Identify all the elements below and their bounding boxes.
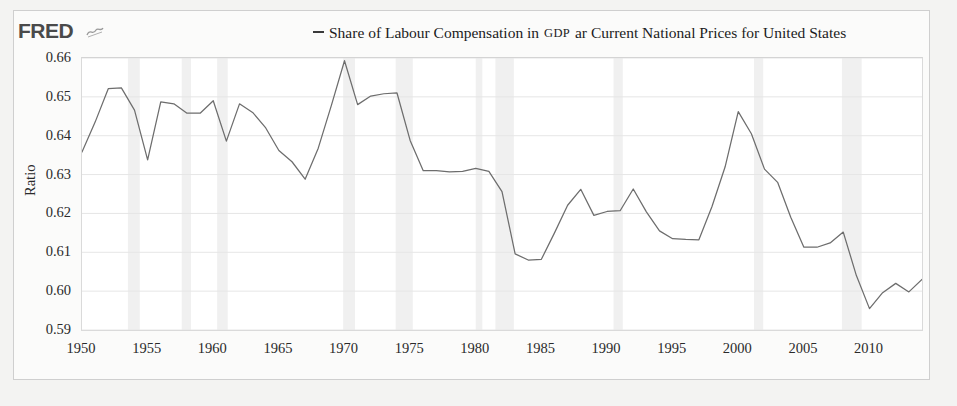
x-axis-tick-label: 1975 (395, 340, 424, 357)
y-axis-tick-label: 0.65 (25, 87, 71, 104)
x-axis-tick-label: 2005 (788, 340, 817, 357)
x-axis-tick-label: 1985 (526, 340, 555, 357)
squiggle-line-icon (86, 26, 104, 38)
recession-band (842, 58, 862, 330)
x-axis-tick-label: 1980 (460, 340, 489, 357)
x-axis-tick-label: 1970 (329, 340, 358, 357)
y-axis-tick-label: 0.61 (25, 243, 71, 260)
x-axis-tick-label: 1990 (592, 340, 621, 357)
legend-label-gdp: GDP (544, 26, 570, 41)
x-axis-tick-label: 1950 (67, 340, 96, 357)
y-axis-title: Ratio (22, 165, 39, 196)
recession-band (476, 58, 483, 330)
y-axis-tick-label: 0.64 (25, 126, 71, 143)
x-axis-tick-label: 1965 (263, 340, 292, 357)
y-axis-tick-label: 0.66 (25, 49, 71, 66)
legend-label-part1: Share of Labour Compensation in (329, 24, 539, 42)
x-axis-tick-label: 1995 (657, 340, 686, 357)
y-axis-tick-label: 0.59 (25, 321, 71, 338)
x-axis-tick-label: 1960 (198, 340, 227, 357)
x-axis-tick-label: 2010 (854, 340, 883, 357)
recession-band (343, 58, 355, 330)
recession-band (495, 58, 513, 330)
fred-logo[interactable]: FRED (18, 20, 73, 41)
y-axis-tick-label: 0.62 (25, 204, 71, 221)
y-axis-tick-label: 0.60 (25, 282, 71, 299)
recession-band (128, 58, 140, 330)
recession-band (614, 58, 623, 330)
plot-area[interactable] (81, 57, 923, 331)
recession-bands (128, 58, 862, 330)
chart-canvas (82, 58, 922, 330)
legend-label-part2: ar Current National Prices for United St… (575, 24, 846, 42)
recession-band (217, 58, 228, 330)
legend-line-marker (313, 31, 324, 33)
x-axis-tick-label: 1955 (132, 340, 161, 357)
x-axis-tick-label: 2000 (723, 340, 752, 357)
chart-legend[interactable]: Share of Labour Compensation in GDP ar C… (313, 24, 846, 42)
fred-chart-screenshot: FRED Share of Labour Compensation in GDP… (0, 0, 957, 406)
recession-band (754, 58, 763, 330)
recession-band (182, 58, 191, 330)
